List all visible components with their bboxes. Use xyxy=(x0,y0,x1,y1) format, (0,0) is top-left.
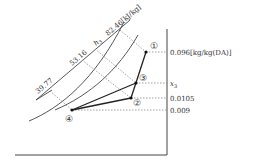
enthalpy-label-h3: h3 xyxy=(92,36,103,47)
state-point-1 xyxy=(144,50,147,53)
point-label-4: ④ xyxy=(65,114,73,124)
enthalpy-line-base xyxy=(36,20,130,100)
enthalpy-guide-2 xyxy=(82,60,131,98)
process-line-2-4 xyxy=(72,98,131,110)
state-point-4 xyxy=(70,108,73,111)
state-point-3 xyxy=(134,81,137,84)
humidity-label-1: 0.096[kg/kg(DA)] xyxy=(170,49,232,57)
point-label-3: ③ xyxy=(139,73,147,83)
psychrometric-diagram: ① ③ ② ④ 0.096[kg/kg(DA)] x3 0.0105 0.009… xyxy=(0,0,260,163)
enthalpy-guide-1 xyxy=(120,30,146,52)
humidity-label-4: 0.009 xyxy=(170,107,190,115)
humidity-label-2: 0.0105 xyxy=(170,95,195,103)
process-line-4-3 xyxy=(72,83,136,110)
point-label-1: ① xyxy=(150,41,158,51)
humidity-label-3: x3 xyxy=(170,80,177,89)
point-label-2: ② xyxy=(133,98,141,108)
enthalpy-label-82-46: 82.46[kJ/kg] xyxy=(104,3,143,37)
